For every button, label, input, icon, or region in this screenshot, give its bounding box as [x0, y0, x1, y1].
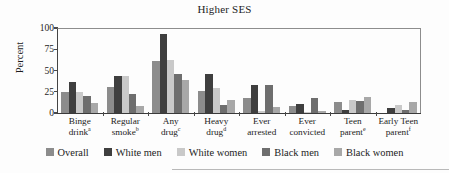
bar-group [148, 28, 194, 113]
bar [174, 74, 181, 113]
bar [273, 107, 280, 113]
bar [409, 102, 416, 113]
y-tick-label-100: 100 [40, 23, 54, 33]
legend-swatch [262, 148, 270, 156]
bar [318, 111, 325, 113]
bar [364, 97, 371, 113]
x-axis-labels: BingedrinkaRegularsmokebAnydrugcHeavydru… [57, 116, 421, 142]
bar [402, 110, 409, 113]
x-tick-mark [239, 112, 240, 116]
legend-swatch [46, 148, 54, 156]
legend-label: Black women [346, 147, 403, 158]
bar [311, 98, 318, 113]
page-rule [172, 169, 449, 170]
bar [395, 105, 402, 114]
bar [205, 74, 212, 113]
legend-item: Black men [262, 147, 319, 158]
bar [198, 91, 205, 113]
bar [349, 100, 356, 113]
bar [122, 76, 129, 113]
bar [167, 60, 174, 113]
bar-group [376, 28, 422, 113]
x-tick-mark [376, 112, 377, 116]
bar [342, 110, 349, 113]
x-tick-mark [103, 112, 104, 116]
legend-item: Overall [46, 147, 89, 158]
legend-swatch [334, 148, 342, 156]
bar [182, 80, 189, 113]
bar [213, 88, 220, 114]
bar [220, 105, 227, 114]
bar [251, 85, 258, 113]
chart-legend: OverallWhite menWhite womenBlack menBlac… [0, 144, 449, 160]
legend-label: White men [116, 147, 162, 158]
bar-groups [57, 28, 421, 113]
bar-group [285, 28, 331, 113]
x-tick-mark [148, 112, 149, 116]
bar-group [194, 28, 240, 113]
bar [258, 111, 265, 113]
bar [160, 34, 167, 113]
y-tick-label-25: 25 [45, 87, 55, 97]
bar [114, 76, 121, 113]
bar [296, 104, 303, 113]
legend-label: White women [189, 147, 248, 158]
bar [76, 92, 83, 113]
bar [265, 85, 272, 113]
bar [304, 112, 311, 113]
bar [107, 87, 114, 113]
legend-swatch [104, 148, 112, 156]
legend-swatch [177, 148, 185, 156]
bar-group [330, 28, 376, 113]
bar [91, 103, 98, 113]
bar [83, 96, 90, 113]
chart-title: Higher SES [0, 3, 449, 15]
bar [227, 100, 234, 113]
bar [136, 106, 143, 113]
legend-item: White men [104, 147, 162, 158]
x-tick-mark [194, 112, 195, 116]
x-tick-mark [285, 112, 286, 116]
bar-group [239, 28, 285, 113]
bar [129, 94, 136, 113]
bar [334, 102, 341, 113]
bar [61, 92, 68, 113]
bar [356, 101, 363, 113]
bar [69, 82, 76, 113]
bar [289, 106, 296, 113]
bar-group [103, 28, 149, 113]
legend-label: Black men [274, 147, 319, 158]
y-tick-label-75: 75 [45, 44, 55, 54]
x-tick-mark [330, 112, 331, 116]
bar [243, 98, 250, 113]
bar [152, 61, 159, 113]
bar [387, 108, 394, 113]
chart-figure: Higher SES Percent 0255075100 Bingedrink… [0, 0, 449, 173]
legend-label: Overall [58, 147, 89, 158]
bar-group [57, 28, 103, 113]
x-axis-label: Early Teenparentf [370, 116, 428, 138]
y-tick-label-50: 50 [45, 66, 55, 76]
legend-item: White women [177, 147, 248, 158]
legend-item: Black women [334, 147, 403, 158]
